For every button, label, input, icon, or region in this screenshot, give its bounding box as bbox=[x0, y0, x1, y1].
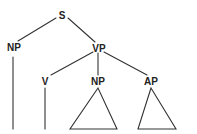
edge-vp-v bbox=[51, 52, 93, 75]
edge-s-vp bbox=[68, 18, 95, 42]
node-v: V bbox=[42, 76, 49, 87]
node-ap: AP bbox=[144, 76, 158, 87]
ap-triangle bbox=[138, 88, 176, 129]
object-np-triangle bbox=[70, 88, 117, 129]
tree-svg: S NP VP V NP AP bbox=[0, 0, 197, 134]
node-np-subject: NP bbox=[7, 42, 21, 53]
node-np-object: NP bbox=[91, 76, 105, 87]
node-vp: VP bbox=[92, 43, 106, 54]
edge-s-np bbox=[18, 18, 56, 41]
node-s: S bbox=[59, 10, 66, 21]
edge-vp-ap bbox=[104, 52, 147, 75]
syntax-tree-diagram: S NP VP V NP AP bbox=[0, 0, 197, 134]
